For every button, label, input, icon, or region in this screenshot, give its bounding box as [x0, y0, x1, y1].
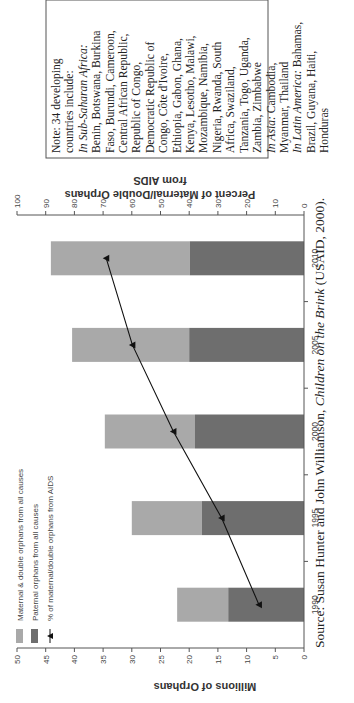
bar-paternal: [202, 501, 304, 535]
right-axis-label-line2: from AIDS: [133, 175, 186, 187]
source-caption: Source: Susan Hunter and John Williamson…: [312, 143, 328, 703]
left-axis-tick-label: 50: [13, 654, 22, 663]
note-line: Congo, Côte d'Ivoire,: [157, 1, 170, 153]
rotated-figure: Maternal & double orphans from all cause…: [0, 0, 354, 703]
left-axis-tick-label: 25: [157, 654, 166, 663]
left-axis: 05101520253035404550: [13, 648, 309, 664]
note-text: Bahamas,: [291, 22, 304, 70]
bar-paternal: [228, 588, 304, 622]
note-line: Tanzania, Togo, Uganda,: [238, 1, 251, 153]
left-axis-tick-label: 30: [128, 654, 137, 663]
note-line: Ethiopia, Gabon, Ghana,: [171, 1, 184, 153]
note-region-heading: In Latin America:: [291, 70, 304, 153]
legend: Maternal & double orphans from all cause…: [16, 469, 55, 643]
right-axis-tick-label: 0: [300, 203, 309, 208]
left-axis-tick-label: 0: [300, 654, 309, 659]
bars: [51, 241, 304, 621]
note-line: Republic of Congo,: [130, 1, 143, 153]
right-axis-label-line1: Percent of Maternal/Double Orphans: [65, 189, 256, 201]
note-line: Nigeria, Rwanda, South: [211, 1, 224, 153]
note-region-heading: In Asia:: [265, 116, 278, 153]
right-axis-tick-label: 100: [13, 194, 22, 208]
note-line: Honduras: [318, 1, 331, 153]
note-line: Brazil, Guyana, Haiti,: [305, 1, 318, 153]
left-axis-tick-label: 15: [214, 654, 223, 663]
left-axis-tick-label: 40: [70, 654, 79, 663]
note-line: countries include:: [63, 1, 76, 153]
left-axis-tick-label: 20: [185, 654, 194, 663]
note-line: Central African Republic,: [117, 1, 130, 153]
left-axis-tick-label: 45: [42, 654, 51, 663]
note-line: Faso, Burundi, Cameroon,: [104, 1, 117, 153]
source-title: Children on the Brink: [312, 289, 327, 407]
note-line: Democratic Republic of: [144, 1, 157, 153]
note-line: Myanmar, Thailand: [278, 1, 291, 153]
left-axis-tick-label: 5: [271, 654, 280, 659]
bar-maternal-double: [51, 241, 190, 275]
note-line: In Latin America: Bahamas,: [291, 1, 304, 153]
bar-maternal-double: [177, 588, 228, 622]
right-axis-tick-label: 90: [42, 199, 51, 208]
note-line: In Asia: Cambodia,: [265, 1, 278, 153]
legend-label-aids: % of maternal/double orphans from AIDS: [46, 476, 55, 621]
left-axis-label: Millions of Orphans: [154, 681, 257, 693]
note-line: Note: 34 developing: [50, 1, 63, 153]
bar-paternal: [190, 241, 304, 275]
note-box: Note: 34 developing countries include: I…: [50, 1, 332, 153]
bar-paternal: [195, 415, 304, 449]
note-line: Zambia, Zimbabwe: [251, 1, 264, 153]
note-text: Cambodia,: [265, 63, 278, 116]
source-suffix: (USAID, 2000).: [312, 198, 327, 289]
note-line: Benin, Botswana, Burkina: [90, 1, 103, 153]
left-axis-tick-label: 10: [243, 654, 252, 663]
note-line: Mozambique, Namibia,: [197, 1, 210, 153]
note-line: Africa, Swaziland,: [224, 1, 237, 153]
legend-label-paternal: Paternal orphans from all causes: [31, 504, 40, 621]
bar-maternal-double: [105, 415, 195, 449]
right-axis-tick-label: 10: [271, 199, 280, 208]
left-axis-tick-label: 35: [99, 654, 108, 663]
legend-label-maternal: Maternal & double orphans from all cause…: [16, 469, 25, 621]
legend-swatch-maternal: [16, 629, 23, 643]
note-line: Kenya, Lesotho, Malawi,: [184, 1, 197, 153]
legend-swatch-paternal: [31, 629, 38, 643]
source-prefix: Source: Susan Hunter and John Williamson…: [312, 406, 327, 648]
note-region-heading: In Sub-Saharan Africa:: [77, 1, 90, 153]
bar-maternal-double: [132, 501, 202, 535]
bar-paternal: [189, 328, 304, 362]
